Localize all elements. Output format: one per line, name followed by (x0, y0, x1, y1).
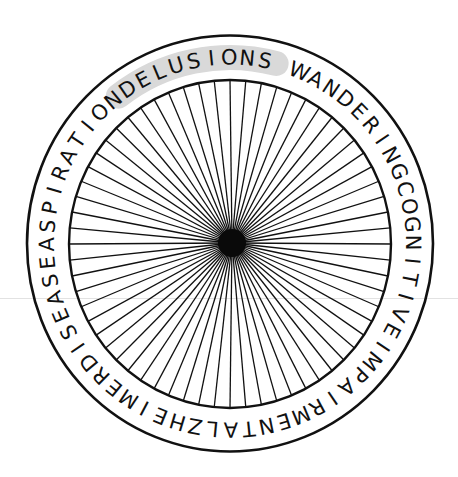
hub (218, 229, 246, 257)
ring-letter: T (241, 416, 257, 441)
spoke (70, 243, 232, 260)
spoke (230, 80, 232, 243)
spoke (154, 99, 232, 243)
ring-letter: N (401, 235, 425, 251)
ring-letter: N (238, 46, 256, 71)
spoke (232, 108, 319, 243)
ring-letter: A (35, 236, 59, 251)
spoke (69, 243, 232, 244)
spoke (232, 243, 372, 321)
ring-letter: O (396, 196, 423, 217)
ring-letter: L (206, 416, 220, 441)
ring-letter: E (35, 255, 60, 271)
ring-letter: I (393, 290, 418, 303)
ring-letter: A (41, 287, 68, 308)
spoke (232, 181, 379, 243)
ring-letter: I (42, 184, 67, 197)
ring-letter: P (37, 200, 63, 217)
ring-letter: O (221, 45, 238, 69)
ring-letter: A (223, 417, 238, 441)
word-wheel-diagram: DELUSIONSWANDERINGCOGNITIVEIMPAIRMENTALZ… (0, 0, 458, 477)
ring-letter: G (399, 215, 425, 234)
spoke (232, 243, 391, 244)
spoke (232, 243, 354, 348)
spoke (232, 83, 261, 243)
spoke (128, 243, 232, 371)
spoke (214, 81, 232, 243)
ring-letter: E (48, 305, 75, 327)
spoke (232, 243, 292, 396)
ring-letter: N (256, 412, 276, 439)
spoke (232, 243, 332, 371)
ring-letter: T (397, 269, 423, 287)
spoke (232, 140, 354, 243)
spoke (230, 243, 232, 408)
spoke (232, 243, 379, 307)
spoke (128, 117, 232, 243)
ring-letter: E (150, 402, 171, 429)
ring-letter: I (323, 386, 342, 409)
ring-letter: S (38, 272, 64, 290)
ring-letter: S (35, 218, 60, 234)
spoke (232, 117, 332, 243)
spoke (232, 243, 306, 389)
spoke (232, 99, 306, 243)
spoke (232, 243, 390, 260)
ring-letter: I (400, 257, 424, 265)
ring-letter: Z (186, 413, 205, 439)
spoke (232, 92, 292, 243)
spoke (214, 243, 232, 407)
